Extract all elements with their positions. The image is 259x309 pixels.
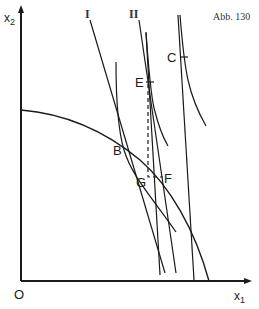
tangent-line-C	[178, 15, 194, 280]
point-E-label: E	[135, 75, 144, 90]
figure-caption: Abb. 130	[213, 11, 250, 22]
economics-diagram: x2 x1 O Abb. 130 I II B C E F G	[0, 0, 259, 309]
x-axis-label: x1	[234, 289, 245, 305]
axes	[18, 5, 252, 284]
indifference-curve-B	[116, 62, 176, 232]
point-G-label: G	[136, 175, 146, 190]
y-axis-label: x2	[4, 11, 15, 27]
point-C-label: C	[167, 50, 176, 65]
y-axis-arrow-icon	[18, 5, 24, 13]
line-I-label: I	[85, 7, 90, 21]
origin-label: O	[14, 287, 24, 302]
transformation-curve	[21, 110, 209, 281]
point-F-label: F	[164, 171, 172, 186]
point-B-label: B	[113, 143, 122, 158]
price-line-I	[90, 20, 165, 273]
x-axis-arrow-icon	[244, 278, 252, 284]
line-II-label: II	[129, 7, 139, 21]
